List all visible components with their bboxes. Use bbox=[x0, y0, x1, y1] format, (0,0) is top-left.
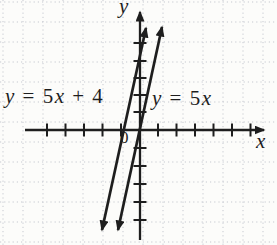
axes bbox=[25, 12, 264, 240]
right-line-equation-label: y = 5x bbox=[152, 87, 213, 110]
axis-ticks bbox=[47, 43, 251, 220]
graph-figure: y = 5x + 4 y = 5x y x 0 bbox=[0, 0, 277, 245]
origin-label: 0 bbox=[120, 129, 129, 148]
y-axis-label: y bbox=[119, 0, 128, 18]
grid-lines bbox=[0, 0, 277, 245]
left-line-equation-label: y = 5x + 4 bbox=[5, 85, 104, 108]
plot-canvas bbox=[0, 0, 277, 245]
x-axis-label: x bbox=[256, 130, 265, 153]
